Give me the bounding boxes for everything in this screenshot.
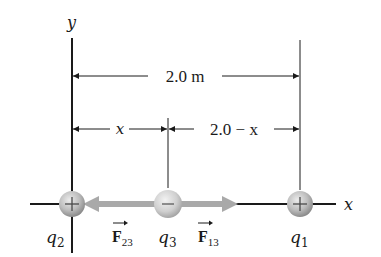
dimension-left-label: x (116, 120, 125, 138)
charge-label-q2: q2 (46, 227, 65, 250)
coulomb-force-diagram: y x 2.0 m x 2.0 − x (0, 0, 381, 257)
x-axis-label: x (344, 195, 353, 214)
charge-q3 (154, 190, 182, 218)
charge-q2 (59, 191, 85, 217)
charge-label-q1: q1 (290, 227, 309, 250)
force-label-f23: F23 (112, 221, 133, 249)
y-axis-label: y (66, 13, 77, 32)
force-arrow-f23 (83, 196, 156, 212)
svg-text:F23: F23 (112, 228, 133, 248)
dimension-right-label: 2.0 − x (210, 120, 258, 139)
charge-label-q3: q3 (158, 227, 177, 250)
dimension-total-label: 2.0 m (166, 67, 205, 86)
charge-q1 (287, 191, 313, 217)
force-arrow-f13 (181, 196, 238, 212)
force-label-f13: F13 (198, 221, 219, 249)
svg-text:F13: F13 (198, 228, 219, 248)
